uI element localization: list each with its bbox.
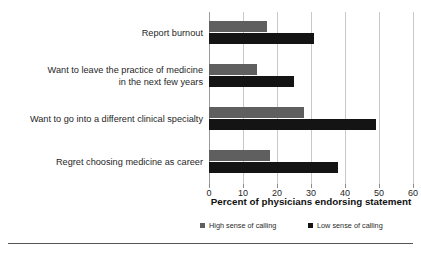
bar-low-sense-of-calling	[209, 119, 376, 130]
bar-high-sense-of-calling	[209, 107, 304, 118]
bar-group-want-to-leave-practice	[209, 55, 413, 98]
legend-item-high-sense-of-calling: High sense of calling	[200, 221, 276, 230]
bar-group-regret-medicine	[209, 141, 413, 184]
category-label-different-specialty: Want to go into a different clinical spe…	[0, 98, 209, 141]
bar-low-sense-of-calling	[209, 76, 294, 87]
category-label-text: Regret choosing medicine as career	[56, 157, 209, 169]
bar-group-different-specialty	[209, 98, 413, 141]
bar-high-sense-of-calling	[209, 64, 257, 75]
bar-low-sense-of-calling	[209, 33, 314, 44]
bar-high-sense-of-calling	[209, 21, 267, 32]
legend-swatch-icon	[200, 223, 205, 228]
category-label-regret-medicine: Regret choosing medicine as career	[0, 141, 209, 184]
footer-divider	[8, 243, 413, 244]
category-label-report-burnout: Report burnout	[0, 12, 209, 55]
chart-figure: Report burnout Want to leave the practic…	[0, 0, 421, 254]
category-label-text: Want to leave the practice of medicine i…	[48, 65, 209, 88]
bar-low-sense-of-calling	[209, 162, 338, 173]
legend-label-text: Low sense of calling	[317, 221, 383, 230]
plot-area	[209, 12, 413, 184]
category-label-text: Want to go into a different clinical spe…	[30, 114, 209, 126]
legend-swatch-icon	[308, 223, 313, 228]
category-axis-labels: Report burnout Want to leave the practic…	[0, 12, 209, 184]
bar-group-report-burnout	[209, 12, 413, 55]
legend-item-low-sense-of-calling: Low sense of calling	[308, 221, 383, 230]
bar-high-sense-of-calling	[209, 150, 270, 161]
x-axis-title: Percent of physicians endorsing statemen…	[209, 196, 413, 207]
chart-legend: High sense of calling Low sense of calli…	[190, 221, 421, 233]
category-label-text: Report burnout	[142, 28, 209, 40]
category-label-want-to-leave-practice: Want to leave the practice of medicine i…	[0, 55, 209, 98]
legend-label-text: High sense of calling	[209, 221, 276, 230]
gridline-60	[413, 12, 414, 184]
